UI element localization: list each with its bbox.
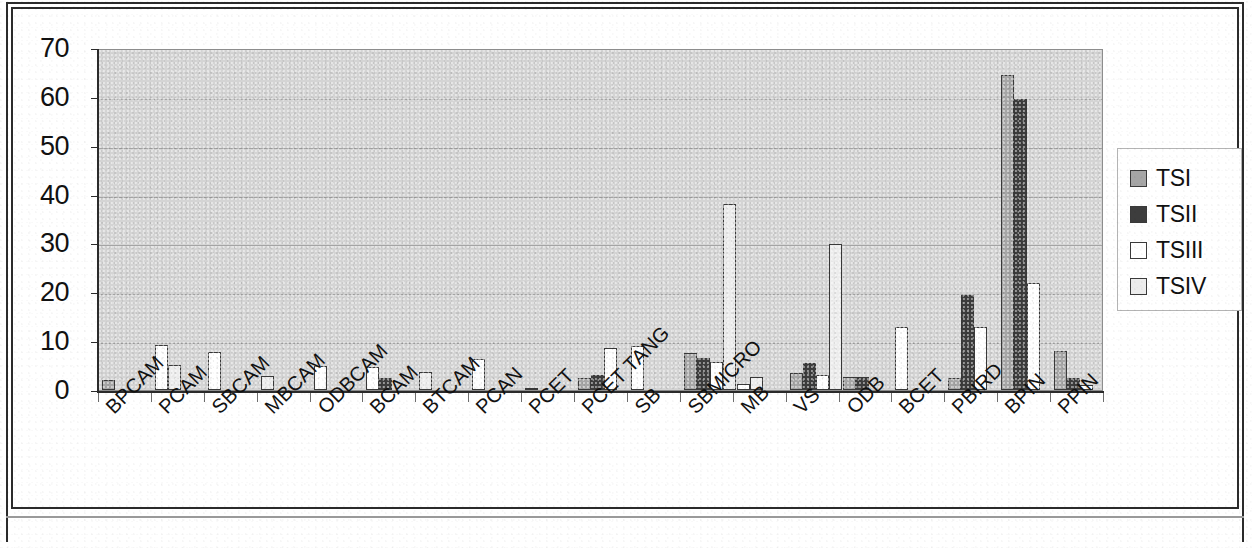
x-tick-mark bbox=[98, 393, 99, 402]
bar-vs-tsiii bbox=[816, 375, 829, 390]
gridline bbox=[99, 294, 1102, 295]
legend-item-tsi[interactable]: TSI bbox=[1130, 160, 1241, 196]
bar-pcam-tsiii bbox=[155, 345, 168, 390]
legend-label: TSIV bbox=[1156, 275, 1206, 298]
y-tick-label: 0 bbox=[54, 377, 69, 404]
y-tick-label: 10 bbox=[40, 328, 69, 355]
y-tick-label: 40 bbox=[40, 182, 69, 209]
x-tick-mark bbox=[310, 393, 311, 402]
x-tick-mark bbox=[204, 393, 205, 402]
legend-swatch-icon bbox=[1130, 170, 1147, 187]
bar-vs-tsi bbox=[790, 373, 803, 390]
scanned-page-border-top bbox=[6, 2, 1244, 4]
x-tick-mark bbox=[415, 393, 416, 402]
bar-ppin-tsi bbox=[1054, 351, 1067, 390]
plot-area bbox=[98, 49, 1103, 391]
x-tick-mark bbox=[574, 393, 575, 402]
x-tick-mark bbox=[839, 393, 840, 402]
x-tick-mark bbox=[786, 393, 787, 402]
y-tick-mark bbox=[91, 196, 98, 197]
x-tick-mark bbox=[521, 393, 522, 402]
bar-bcam-tsiii bbox=[366, 367, 379, 390]
bar-sbmicro-tsii bbox=[697, 358, 710, 390]
legend-label: TSII bbox=[1156, 203, 1197, 226]
scan-texture bbox=[99, 50, 1102, 390]
bar-odbcam-tsiii bbox=[314, 366, 327, 390]
legend-item-tsii[interactable]: TSII bbox=[1130, 196, 1241, 232]
bar-pcet-tang-tsi bbox=[578, 378, 591, 390]
bar-bpin-tsi bbox=[1001, 75, 1014, 390]
y-axis-line bbox=[97, 49, 99, 392]
bar-pbird-tsi bbox=[948, 378, 961, 390]
y-tick-mark bbox=[91, 293, 98, 294]
legend-swatch-icon bbox=[1130, 242, 1147, 259]
bar-bpin-tsii bbox=[1014, 99, 1027, 390]
chart-legend: TSITSIITSIIITSIV bbox=[1117, 148, 1242, 311]
bar-bcet-tsiii bbox=[895, 327, 908, 390]
gridline bbox=[99, 343, 1102, 344]
x-tick-mark bbox=[1050, 393, 1051, 402]
y-tick-mark bbox=[91, 49, 98, 50]
bar-mb-tsiv bbox=[750, 377, 763, 390]
y-tick-mark bbox=[91, 391, 98, 392]
y-tick-mark bbox=[91, 244, 98, 245]
y-tick-mark bbox=[91, 342, 98, 343]
x-tick-mark bbox=[151, 393, 152, 402]
y-tick-mark bbox=[91, 98, 98, 99]
bar-vs-tsiv bbox=[829, 244, 842, 390]
x-tick-mark bbox=[468, 393, 469, 402]
bar-pcet-tsii bbox=[525, 388, 538, 390]
bar-ppin-tsii bbox=[1067, 378, 1080, 390]
bar-btcam-tsiv bbox=[419, 372, 432, 390]
bar-sbmicro-tsiv bbox=[723, 204, 736, 390]
bar-odb-tsii bbox=[856, 377, 869, 390]
x-tick-mark bbox=[362, 393, 363, 402]
bar-odb-tsi bbox=[843, 377, 856, 390]
chart-container: 010203040506070 BPCAMPCAMSBCAMMBCAMODBCA… bbox=[11, 7, 1239, 509]
y-tick-mark bbox=[91, 147, 98, 148]
bar-pcet-tang-tsiii bbox=[604, 348, 617, 390]
y-tick-label: 20 bbox=[40, 279, 69, 306]
bar-sb-tsiii bbox=[631, 346, 644, 390]
bar-pcam-tsiv bbox=[168, 365, 181, 390]
x-tick-mark bbox=[891, 393, 892, 402]
bar-pbird-tsiii bbox=[974, 327, 987, 391]
bar-bcam-tsii bbox=[379, 378, 392, 390]
bar-sbmicro-tsi bbox=[684, 353, 697, 390]
y-tick-label: 60 bbox=[40, 84, 69, 111]
x-tick-mark bbox=[733, 393, 734, 402]
gridline bbox=[99, 245, 1102, 246]
legend-label: TSIII bbox=[1156, 239, 1203, 262]
gridline bbox=[99, 148, 1102, 149]
legend-label: TSI bbox=[1156, 167, 1191, 190]
y-tick-label: 70 bbox=[40, 35, 69, 62]
bar-mbcam-tsiv bbox=[261, 376, 274, 390]
bar-sbcam-tsiii bbox=[208, 352, 221, 390]
x-axis-line bbox=[97, 391, 1104, 393]
x-tick-mark bbox=[257, 393, 258, 402]
bar-vs-tsii bbox=[803, 363, 816, 390]
x-tick-mark bbox=[1103, 393, 1104, 402]
x-tick-mark bbox=[997, 393, 998, 402]
y-tick-label: 50 bbox=[40, 133, 69, 160]
x-tick-mark bbox=[944, 393, 945, 402]
bar-pcet-tang-tsii bbox=[591, 375, 604, 390]
bar-pbird-tsii bbox=[961, 295, 974, 390]
gridline bbox=[99, 197, 1102, 198]
scanned-page-border-bottom bbox=[6, 516, 1244, 518]
bar-mb-tsiii bbox=[737, 384, 750, 390]
legend-swatch-icon bbox=[1130, 278, 1147, 295]
legend-item-tsiii[interactable]: TSIII bbox=[1130, 232, 1241, 268]
x-tick-mark bbox=[680, 393, 681, 402]
gridline bbox=[99, 99, 1102, 100]
bar-sbmicro-tsiii bbox=[710, 362, 723, 390]
bar-bpin-tsiii bbox=[1027, 283, 1040, 390]
legend-item-tsiv[interactable]: TSIV bbox=[1130, 268, 1241, 304]
bar-ppin-tsiii bbox=[1080, 385, 1093, 390]
y-tick-label: 30 bbox=[40, 230, 69, 257]
bar-bpcam-tsi bbox=[102, 380, 115, 390]
x-tick-mark bbox=[627, 393, 628, 402]
legend-swatch-icon bbox=[1130, 206, 1147, 223]
bar-pcan-tsiii bbox=[472, 359, 485, 390]
